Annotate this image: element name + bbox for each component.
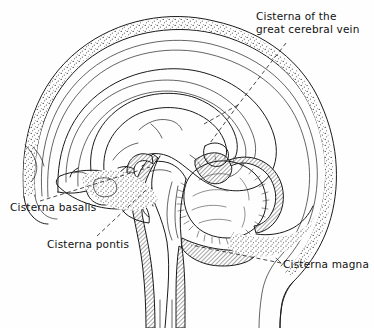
label-cisterna-magna: Cisterna magna bbox=[283, 258, 369, 271]
label-gcv-line2: great cerebral vein bbox=[256, 23, 360, 35]
label-cisterna-pontis: Cisterna pontis bbox=[47, 238, 129, 251]
leader-lines bbox=[40, 43, 286, 263]
cisterna-of-great-cerebral-vein bbox=[195, 143, 232, 184]
label-gcv-line1: Cisterna of the bbox=[256, 10, 337, 22]
label-cisterna-basalis: Cisterna basalis bbox=[10, 201, 96, 214]
anatomical-illustration bbox=[0, 0, 374, 328]
tentorium-cerebelli bbox=[229, 157, 283, 233]
anatomy-figure: Cisterna of thegreat cerebral vein Ciste… bbox=[0, 0, 374, 328]
leader-great-cerebral-vein-branch-2 bbox=[210, 105, 238, 143]
label-cisterna-great-cerebral-vein: Cisterna of thegreat cerebral vein bbox=[256, 10, 360, 36]
dura-mater-line bbox=[48, 50, 310, 261]
